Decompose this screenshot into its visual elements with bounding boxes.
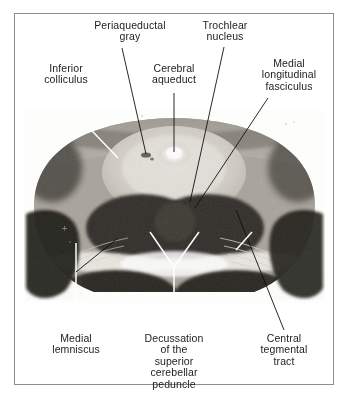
label-cerebral-aqueduct: Cerebral aqueduct	[141, 63, 207, 86]
label-periaqueductal-gray: Periaqueductal gray	[82, 20, 178, 43]
label-central-tegmental-tract: Central tegmental tract	[252, 333, 316, 367]
section-photo-graphic	[24, 110, 325, 303]
figure-midbrain-cross-section: Inferior colliculus Periaqueductal gray …	[0, 0, 348, 401]
label-trochlear-nucleus: Trochlear nucleus	[192, 20, 258, 43]
label-decussation-superior-cerebellar-peduncle: Decussation of the superior cerebellar p…	[139, 333, 209, 390]
label-inferior-colliculus: Inferior colliculus	[24, 63, 108, 86]
histology-photograph	[24, 110, 325, 303]
label-medial-lemniscus: Medial lemniscus	[40, 333, 112, 356]
label-medial-longitudinal-fasciculus: Medial longitudinal fasciculus	[249, 58, 329, 92]
